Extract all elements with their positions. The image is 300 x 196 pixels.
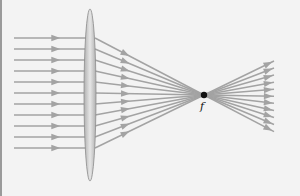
ray-arrowhead-icon (263, 75, 273, 81)
diverging-rays (204, 61, 274, 132)
ray-arrowhead-icon (51, 35, 60, 41)
converging-ray (95, 95, 204, 115)
ray-arrowhead-icon (120, 49, 129, 56)
converging-rays (95, 38, 204, 148)
incoming-parallel-rays (14, 35, 90, 151)
diverging-ray (204, 82, 274, 95)
ray-arrowhead-icon (120, 65, 130, 71)
ray-arrowhead-icon (51, 68, 60, 74)
ray-arrowhead-icon (121, 107, 130, 113)
ray-arrowhead-icon (51, 123, 60, 129)
ray-arrowhead-icon (264, 99, 273, 105)
ray-arrowhead-icon (51, 79, 60, 85)
ray-arrowhead-icon (121, 90, 130, 96)
convex-lens (84, 9, 96, 181)
converging-ray (95, 71, 204, 95)
ray-arrowhead-icon (120, 116, 130, 122)
ray-arrowhead-icon (263, 111, 273, 117)
ray-arrowhead-icon (121, 82, 130, 88)
lens-diagram: f (0, 0, 300, 196)
converging-ray (95, 38, 204, 95)
ray-arrowhead-icon (120, 131, 129, 138)
focal-point-label: f (200, 100, 204, 113)
converging-ray (95, 95, 204, 137)
ray-arrowhead-icon (51, 145, 60, 151)
ray-arrowhead-icon (51, 46, 60, 52)
ray-arrowhead-icon (51, 57, 60, 63)
ray-arrowhead-icon (51, 101, 60, 107)
ray-arrowhead-icon (264, 93, 273, 99)
ray-arrowhead-icon (263, 118, 273, 124)
diverging-ray (204, 95, 274, 132)
focal-point-dot (201, 92, 207, 98)
ray-arrowhead-icon (263, 124, 272, 131)
diverging-ray (204, 68, 274, 95)
ray-diagram-canvas (0, 0, 300, 196)
ray-arrowhead-icon (263, 62, 272, 69)
converging-ray (95, 60, 204, 95)
ray-arrowhead-icon (51, 112, 60, 118)
ray-arrowhead-icon (51, 90, 60, 96)
ray-arrowhead-icon (263, 69, 273, 75)
ray-arrowhead-icon (263, 81, 272, 87)
ray-arrowhead-icon (51, 134, 60, 140)
ray-arrowhead-icon (120, 57, 130, 63)
ray-arrowhead-icon (120, 124, 130, 130)
